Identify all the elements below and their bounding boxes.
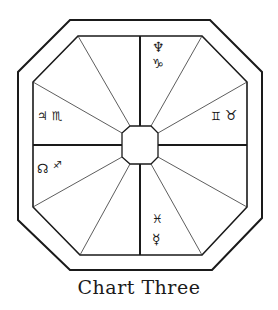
scorpio-icon: ♏ [52,110,63,122]
neptune-icon: ♆ [152,40,165,54]
pisces-icon: ♓ [152,213,163,225]
taurus-icon: ♉ [225,108,238,122]
gemini-icon: ♊ [211,111,221,122]
chart-title: Chart Three [0,276,278,298]
sagittarius-icon: ♐ [53,160,62,170]
north-node-icon: ☊ [37,162,49,175]
center-octagon [122,126,158,164]
mercury-icon: ☿ [152,232,161,246]
astrology-chart [0,0,278,310]
capricorn-icon: ♑ [152,57,164,70]
jupiter-icon: ♃ [37,110,48,122]
